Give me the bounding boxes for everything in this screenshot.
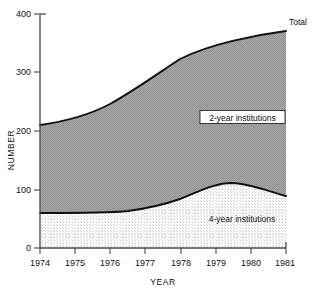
y-tick-label-400: 400 <box>16 9 31 19</box>
y-tick-label-100: 100 <box>16 185 31 195</box>
y-tick-label-300: 300 <box>16 67 31 77</box>
x-tick-labels: 1974 1975 1976 1977 1978 1979 1980 1981 <box>30 258 295 268</box>
x-tick-label-1979: 1979 <box>206 258 226 268</box>
chart-container: 400 300 200 100 0 1974 1975 1976 1977 19… <box>0 0 320 294</box>
y-tick-labels: 400 300 200 100 0 <box>16 9 31 253</box>
y-tick-label-0: 0 <box>26 243 31 253</box>
area-chart: 400 300 200 100 0 1974 1975 1976 1977 19… <box>0 0 320 294</box>
y-tick-label-200: 200 <box>16 126 31 136</box>
x-axis-title: YEAR <box>150 277 176 287</box>
x-tick-label-1975: 1975 <box>65 258 85 268</box>
x-tick-label-1974: 1974 <box>30 258 50 268</box>
x-tick-label-1981: 1981 <box>275 258 295 268</box>
x-tick-label-1978: 1978 <box>171 258 191 268</box>
series-label-total: Total <box>289 17 307 27</box>
x-tick-label-1980: 1980 <box>241 258 261 268</box>
y-axis-title: NUMBER <box>6 130 16 170</box>
x-tick-label-1976: 1976 <box>100 258 120 268</box>
x-tick-label-1977: 1977 <box>135 258 155 268</box>
series-label-2-year-institutions: 2-year institutions <box>209 113 276 123</box>
series-label-4-year-institutions: 4-year institutions <box>209 214 276 224</box>
series-label-2-year-institutions-group: 2-year institutions <box>200 111 285 124</box>
